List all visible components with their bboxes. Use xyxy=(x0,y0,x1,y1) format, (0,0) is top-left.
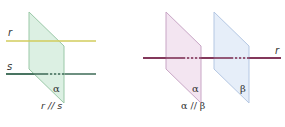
caption-right: α // β xyxy=(181,101,205,111)
figure-right xyxy=(143,12,281,103)
figure-left xyxy=(6,12,96,103)
line-s-label: s xyxy=(7,62,12,72)
caption-left: r // s xyxy=(41,101,62,111)
line-r-label-right: r xyxy=(275,46,279,56)
plane-alpha-label-right: α xyxy=(192,84,199,94)
plane-beta-label: β xyxy=(240,84,246,94)
plane-alpha-label-left: α xyxy=(53,84,60,94)
line-r-label-left: r xyxy=(8,28,12,38)
